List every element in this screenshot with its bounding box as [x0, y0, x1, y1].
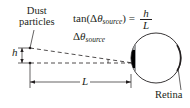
- h-label: h: [12, 47, 18, 58]
- delta-theta-label: Δθsource: [73, 31, 105, 44]
- retina-label: Retina: [155, 90, 182, 101]
- h-arrow-down-icon: [20, 59, 23, 63]
- equation-fraction: h L: [140, 8, 152, 31]
- h-arrow-up-icon: [20, 48, 23, 52]
- tangent-equation: tan(Δθsource) = h L: [73, 8, 152, 31]
- eyeball: [131, 33, 181, 83]
- retina-leader: [178, 68, 181, 90]
- ray-dashed-line: [30, 48, 133, 63]
- L-arrow-right-icon: [126, 80, 131, 83]
- dust-leader: [30, 30, 34, 48]
- L-arrow-left-icon: [30, 80, 35, 83]
- L-label: L: [80, 76, 90, 87]
- dust-particles-label: Dust particles: [19, 5, 55, 27]
